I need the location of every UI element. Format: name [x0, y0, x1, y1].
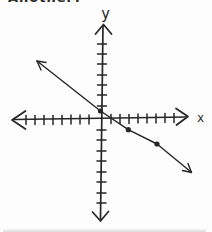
- y-axis-line: [101, 26, 104, 219]
- worksheet-page: Another?: [0, 0, 212, 232]
- coordinate-plane-sketch: y x: [0, 0, 212, 232]
- plotted-point: [154, 141, 159, 146]
- plotted-point: [98, 108, 103, 113]
- x-axis-label: x: [197, 111, 204, 125]
- plotted-point: [126, 127, 131, 132]
- y-axis-label: y: [101, 5, 110, 23]
- page-bottom-edge-shadow: [3, 229, 206, 232]
- x-axis-line: [14, 117, 186, 120]
- sketched-line-upper-arrowhead: [37, 61, 46, 70]
- y-axis: [93, 25, 112, 222]
